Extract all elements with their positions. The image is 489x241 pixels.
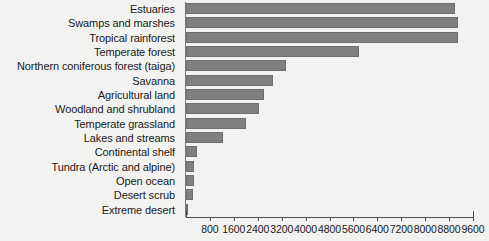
category-label: Northern coniferous forest (taiga) <box>0 59 180 73</box>
plot-area <box>186 2 482 217</box>
bar-row <box>186 160 482 174</box>
category-label: Estuaries <box>0 2 180 16</box>
bar-series <box>186 2 482 217</box>
axis-tick-label: 800 <box>201 223 218 235</box>
axis-tick <box>401 217 402 221</box>
bar-row <box>186 88 482 102</box>
category-axis-labels: Estuaries Swamps and marshes Tropical ra… <box>0 2 180 217</box>
bar <box>186 103 259 114</box>
category-label: Temperate forest <box>0 45 180 59</box>
axis-tick-label: 1600 <box>222 223 245 235</box>
bar <box>186 161 194 172</box>
value-axis-left-cap <box>186 211 187 218</box>
bar <box>186 118 246 129</box>
bar <box>186 146 197 157</box>
axis-tick <box>449 217 450 221</box>
bar <box>186 32 458 43</box>
axis-tick-label: 4000 <box>294 223 317 235</box>
bar-row <box>186 203 482 217</box>
bar-row <box>186 145 482 159</box>
bar-row <box>186 131 482 145</box>
category-label: Temperate grassland <box>0 117 180 131</box>
bar <box>186 60 286 71</box>
axis-tick-label: 4800 <box>318 223 341 235</box>
bar-row <box>186 59 482 73</box>
bar-row <box>186 31 482 45</box>
bar-row <box>186 74 482 88</box>
bar <box>186 175 194 186</box>
category-label: Continental shelf <box>0 145 180 159</box>
axis-tick-label: 8000 <box>414 223 437 235</box>
bar-chart: Estuaries Swamps and marshes Tropical ra… <box>0 0 489 241</box>
axis-tick <box>210 217 211 221</box>
axis-tick <box>306 217 307 221</box>
bar-row <box>186 117 482 131</box>
bar-row <box>186 2 482 16</box>
bar <box>186 3 455 14</box>
bar-row <box>186 102 482 116</box>
axis-tick <box>234 217 235 221</box>
category-label: Desert scrub <box>0 188 180 202</box>
axis-tick-label: 6400 <box>366 223 389 235</box>
axis-tick-label: 5600 <box>342 223 365 235</box>
bar-row <box>186 174 482 188</box>
axis-tick-label: 2400 <box>246 223 269 235</box>
axis-tick-label: 3200 <box>270 223 293 235</box>
axis-tick <box>473 217 474 221</box>
bar <box>186 46 359 57</box>
bar <box>186 132 223 143</box>
bar <box>186 17 458 28</box>
bar-row <box>186 45 482 59</box>
axis-tick <box>425 217 426 221</box>
axis-tick-label: 7200 <box>390 223 413 235</box>
axis-tick-label: 8800 <box>438 223 461 235</box>
category-label: Swamps and marshes <box>0 16 180 30</box>
category-label: Savanna <box>0 74 180 88</box>
category-label: Lakes and streams <box>0 131 180 145</box>
category-label: Agricultural land <box>0 88 180 102</box>
bar <box>186 189 193 200</box>
category-label: Open ocean <box>0 174 180 188</box>
axis-tick-label: 9600 <box>462 223 485 235</box>
category-label: Woodland and shrubland <box>0 102 180 116</box>
axis-tick <box>377 217 378 221</box>
axis-tick <box>330 217 331 221</box>
bar-row <box>186 188 482 202</box>
bar <box>186 75 273 86</box>
category-label: Extreme desert <box>0 203 180 217</box>
category-label: Tropical rainforest <box>0 31 180 45</box>
bar <box>186 89 264 100</box>
axis-tick <box>282 217 283 221</box>
axis-tick <box>353 217 354 221</box>
category-label: Tundra (Arctic and alpine) <box>0 160 180 174</box>
axis-tick <box>258 217 259 221</box>
bar-row <box>186 16 482 30</box>
